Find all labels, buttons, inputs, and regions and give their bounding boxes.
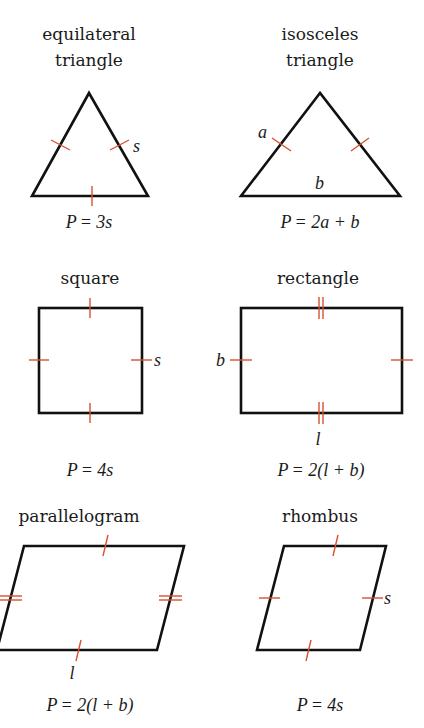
perimeter-formulas-diagram: equilateral triangle s P= 3s isosceles t… — [0, 0, 424, 728]
side-label-b: b — [315, 173, 324, 193]
formula-rhs: = 2a + b — [295, 212, 360, 232]
rectangle-title: rectangle — [277, 268, 359, 288]
side-label-l: l — [315, 429, 320, 449]
formula-lhs: P — [65, 212, 77, 232]
parallelogram-formula: P= 2(l + b) — [46, 695, 134, 716]
formula-lhs: P — [277, 460, 289, 480]
formula-lhs: P — [66, 460, 78, 480]
rhombus-title: rhombus — [282, 506, 358, 526]
equilateral-title-line1: equilateral — [42, 24, 136, 44]
parallelogram-shape — [0, 546, 184, 650]
side-label-a: a — [258, 122, 267, 142]
equal-side-tick-mark — [51, 140, 70, 150]
square-panel: square s P= 4s — [29, 268, 161, 480]
formula-lhs: P — [296, 695, 308, 715]
equilateral-triangle-shape — [32, 93, 148, 196]
parallelogram-panel: parallelogram l P= 2(l + b) — [0, 506, 184, 716]
square-formula: P= 4s — [66, 460, 114, 480]
square-title: square — [61, 268, 120, 288]
isosceles-formula: P= 2a + b — [280, 212, 360, 232]
side-label-l: l — [69, 663, 74, 683]
isosceles-triangle-panel: isosceles triangle a b P= 2a + b — [241, 24, 400, 232]
equilateral-formula: P= 3s — [65, 212, 113, 232]
side-label-b: b — [216, 350, 225, 370]
side-label-s: s — [154, 350, 161, 370]
rectangle-panel: rectangle b l P= 2(l + b) — [216, 268, 413, 481]
formula-lhs: P — [280, 212, 292, 232]
formula-rhs: = 3s — [80, 212, 113, 232]
rectangle-shape — [241, 308, 402, 413]
side-label-s: s — [384, 588, 391, 608]
isosceles-title-line1: isosceles — [282, 24, 359, 44]
square-shape — [39, 308, 142, 413]
formula-rhs: = 2(l + b) — [292, 460, 365, 481]
formula-rhs: = 4s — [81, 460, 114, 480]
rhombus-panel: rhombus s P= 4s — [257, 506, 391, 715]
formula-lhs: P — [46, 695, 58, 715]
parallelogram-title: parallelogram — [18, 506, 139, 526]
formula-rhs: = 2(l + b) — [61, 695, 134, 716]
equilateral-triangle-panel: equilateral triangle s P= 3s — [32, 24, 148, 232]
equal-side-tick-mark — [351, 138, 369, 151]
rectangle-formula: P= 2(l + b) — [277, 460, 365, 481]
equilateral-title-line2: triangle — [55, 50, 123, 70]
rhombus-formula: P= 4s — [296, 695, 344, 715]
equal-side-tick-mark — [272, 138, 291, 151]
formula-rhs: = 4s — [311, 695, 344, 715]
side-label-s: s — [133, 136, 140, 156]
isosceles-title-line2: triangle — [286, 50, 354, 70]
